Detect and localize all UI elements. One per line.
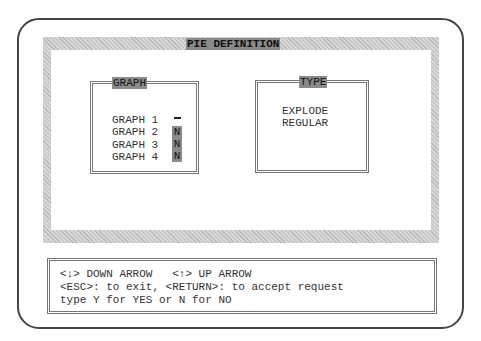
help-navigation-keys: <↓> DOWN ARROW <↑> UP ARROW: [60, 268, 251, 281]
type-option-explode[interactable]: EXPLODE: [282, 105, 328, 118]
help-yes-no: type Y for YES or N for NO: [60, 294, 232, 307]
graph-2-value-field[interactable]: N: [172, 126, 182, 138]
type-option-regular[interactable]: REGULAR: [282, 117, 328, 130]
graph-3-label: GRAPH 3: [112, 139, 158, 152]
graph-panel: GRAPH GRAPH 1 GRAPH 2 N GRAPH 3 N GRAPH …: [90, 81, 199, 174]
type-panel-title: TYPE: [299, 76, 327, 88]
help-exit-accept-keys: <ESC>: to exit, <RETURN>: to accept requ…: [60, 281, 344, 294]
graph-1-label: GRAPH 1: [112, 114, 158, 127]
window-title: PIE DEFINITION: [186, 38, 280, 50]
help-panel: <↓> DOWN ARROW <↑> UP ARROW <ESC>: to ex…: [47, 258, 437, 314]
text-cursor: [174, 117, 181, 119]
type-panel: TYPE EXPLODE REGULAR: [255, 80, 369, 173]
graph-2-label: GRAPH 2: [112, 126, 158, 139]
graph-panel-title: GRAPH: [112, 77, 147, 89]
graph-4-value-field[interactable]: N: [172, 150, 182, 162]
graph-3-value-field[interactable]: N: [172, 138, 182, 150]
graph-4-label: GRAPH 4: [112, 151, 158, 164]
